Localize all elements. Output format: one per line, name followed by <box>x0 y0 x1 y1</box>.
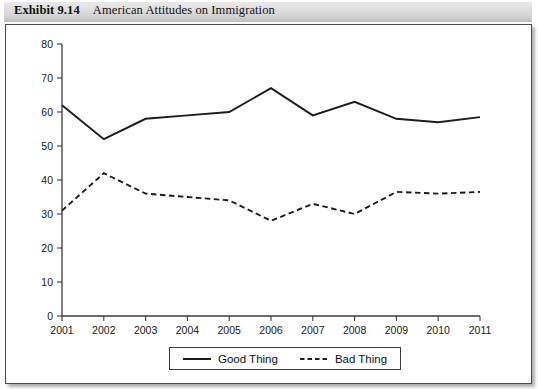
x-tick-label: 2004 <box>176 324 200 336</box>
chart-series <box>62 88 480 221</box>
x-tick-label: 2006 <box>259 324 283 336</box>
x-tick-label: 2007 <box>301 324 325 336</box>
y-tick-label: 10 <box>41 276 53 288</box>
caption-text: Exhibit 9.14American Attitudes on Immigr… <box>14 3 275 18</box>
legend-label-good-thing: Good Thing <box>218 353 278 365</box>
y-tick-label: 20 <box>41 242 53 254</box>
line-chart: 01020304050607080 2001200220032004200520… <box>6 25 531 383</box>
legend-label-bad-thing: Bad Thing <box>335 353 387 365</box>
y-tick-label: 80 <box>41 38 53 50</box>
y-axis-ticks: 01020304050607080 <box>41 38 62 322</box>
series-line-bad-thing <box>62 173 480 221</box>
x-axis-ticks: 2001200220032004200520062007200820092010… <box>50 316 491 336</box>
legend-entry-bad-thing: Bad Thing <box>300 353 387 365</box>
y-tick-label: 50 <box>41 140 53 152</box>
legend-swatch-solid-icon <box>183 354 211 364</box>
x-tick-label: 2010 <box>427 324 451 336</box>
y-tick-label: 30 <box>41 208 53 220</box>
y-tick-label: 40 <box>41 174 53 186</box>
chart-panel: 01020304050607080 2001200220032004200520… <box>5 24 532 384</box>
chart-legend: Good Thing Bad Thing <box>169 347 401 370</box>
y-tick-label: 0 <box>47 310 53 322</box>
x-tick-label: 2003 <box>134 324 158 336</box>
x-tick-label: 2009 <box>385 324 409 336</box>
exhibit-title: American Attitudes on Immigration <box>93 3 275 17</box>
legend-entry-good-thing: Good Thing <box>183 353 278 365</box>
exhibit-number: Exhibit 9.14 <box>14 3 80 17</box>
series-line-good-thing <box>62 88 480 139</box>
y-tick-label: 70 <box>41 72 53 84</box>
x-tick-label: 2008 <box>343 324 367 336</box>
legend-swatch-dashed-icon <box>300 354 328 364</box>
caption-band: Exhibit 9.14American Attitudes on Immigr… <box>4 2 532 22</box>
chart-axes <box>62 44 480 316</box>
x-tick-label: 2002 <box>92 324 116 336</box>
x-tick-label: 2001 <box>50 324 74 336</box>
x-tick-label: 2005 <box>218 324 242 336</box>
x-tick-label: 2011 <box>469 324 492 336</box>
y-tick-label: 60 <box>41 106 53 118</box>
exhibit-figure: Exhibit 9.14American Attitudes on Immigr… <box>0 0 538 389</box>
